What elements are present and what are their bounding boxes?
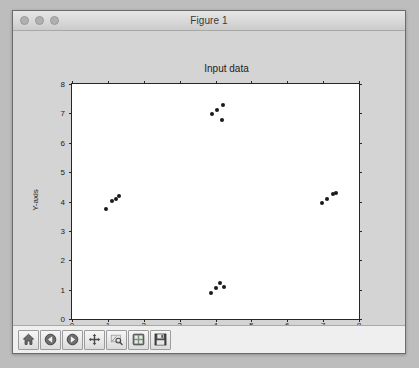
scatter-point xyxy=(222,285,226,289)
scatter-point xyxy=(221,103,225,107)
y-tick-label: 0 xyxy=(61,315,65,324)
y-tick-label: 8 xyxy=(61,80,65,89)
scatter-point xyxy=(210,112,214,116)
y-tick xyxy=(359,260,362,261)
y-tick xyxy=(359,231,362,232)
matplotlib-toolbar xyxy=(13,325,405,353)
chart-title: Input data xyxy=(83,63,370,74)
zoom-rect-button[interactable] xyxy=(106,330,127,350)
y-tick xyxy=(69,84,72,85)
minimize-button[interactable] xyxy=(35,16,44,25)
y-axis-label: Y-axis xyxy=(31,189,40,211)
y-tick xyxy=(69,260,72,261)
save-button[interactable] xyxy=(150,330,171,350)
scatter-point xyxy=(104,207,108,211)
y-tick-label: 1 xyxy=(61,285,65,294)
configure-subplots-button[interactable] xyxy=(128,330,149,350)
scatter-point xyxy=(325,197,329,201)
y-tick xyxy=(359,113,362,114)
x-tick-label: 0 xyxy=(70,321,74,325)
sliders-icon xyxy=(132,333,145,346)
scatter-point xyxy=(215,108,219,112)
scatter-point xyxy=(220,118,224,122)
y-tick xyxy=(359,84,362,85)
y-tick-label: 3 xyxy=(61,226,65,235)
y-tick xyxy=(69,319,72,320)
y-tick-label: 6 xyxy=(61,138,65,147)
y-tick xyxy=(69,172,72,173)
x-tick xyxy=(323,81,324,84)
y-tick xyxy=(69,113,72,114)
x-tick-label: 1 xyxy=(106,321,110,325)
y-tick-label: 4 xyxy=(61,197,65,206)
scatter-point xyxy=(320,201,324,205)
y-tick xyxy=(359,319,362,320)
zoom-button[interactable] xyxy=(50,16,59,25)
window-titlebar[interactable]: Figure 1 xyxy=(13,11,405,31)
x-tick-label: 8 xyxy=(357,321,361,325)
scatter-point xyxy=(334,191,338,195)
x-tick-label: 3 xyxy=(177,321,181,325)
y-tick xyxy=(69,290,72,291)
y-tick xyxy=(69,143,72,144)
forward-arrow-icon xyxy=(66,333,79,346)
y-tick xyxy=(359,143,362,144)
scatter-point xyxy=(209,291,213,295)
home-icon xyxy=(22,333,35,346)
floppy-disk-icon xyxy=(154,333,167,346)
scatter-point xyxy=(214,286,218,290)
back-arrow-icon xyxy=(44,333,57,346)
window-title: Figure 1 xyxy=(13,15,405,26)
x-tick xyxy=(216,81,217,84)
forward-button[interactable] xyxy=(62,330,83,350)
window-controls xyxy=(20,11,59,30)
plot-axes[interactable]: 012345678012345678 xyxy=(71,83,360,320)
y-tick-label: 2 xyxy=(61,256,65,265)
zoom-rect-icon xyxy=(110,333,123,346)
back-button[interactable] xyxy=(40,330,61,350)
x-tick xyxy=(251,81,252,84)
scatter-point xyxy=(117,194,121,198)
figure-window: Figure 1 Input data 012345678012345678 X… xyxy=(12,10,406,354)
x-tick xyxy=(108,81,109,84)
x-tick-label: 4 xyxy=(213,321,217,325)
x-tick xyxy=(180,81,181,84)
figure-canvas[interactable]: Input data 012345678012345678 X-axis Y-a… xyxy=(13,31,405,325)
x-tick-label: 5 xyxy=(249,321,253,325)
x-tick xyxy=(72,81,73,84)
x-tick xyxy=(287,81,288,84)
y-tick xyxy=(359,202,362,203)
scatter-point xyxy=(218,281,222,285)
y-tick xyxy=(359,290,362,291)
move-cross-icon xyxy=(88,333,101,346)
x-tick xyxy=(144,81,145,84)
x-tick-label: 7 xyxy=(321,321,325,325)
y-tick xyxy=(359,172,362,173)
x-tick-label: 6 xyxy=(285,321,289,325)
home-button[interactable] xyxy=(18,330,39,350)
scatter-plot-area xyxy=(72,84,359,319)
pan-button[interactable] xyxy=(84,330,105,350)
y-tick-label: 7 xyxy=(61,109,65,118)
y-tick xyxy=(69,231,72,232)
y-tick xyxy=(69,202,72,203)
close-button[interactable] xyxy=(20,16,29,25)
y-tick-label: 5 xyxy=(61,168,65,177)
x-tick-label: 2 xyxy=(142,321,146,325)
